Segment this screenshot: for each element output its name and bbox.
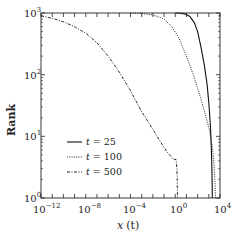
legend-label-t25: t = 25: [86, 136, 116, 147]
x-tick-label-0: 10−12: [33, 202, 61, 215]
x-tick-label-3: 100: [170, 202, 187, 215]
y-tick-label-2: 102: [24, 68, 41, 81]
y-tick-label-3: 103: [24, 6, 41, 19]
major-ticks: [41, 13, 220, 198]
y-tick-label-1: 101: [24, 129, 41, 142]
y-axis-title: Rank: [5, 104, 18, 137]
x-axis-title: x(t): [117, 219, 139, 232]
series-t100-line: [131, 13, 216, 198]
y-tick-label-0: 100: [24, 191, 41, 204]
series-t25-line: [175, 13, 212, 198]
legend: t = 25 t = 100 t = 500: [67, 136, 122, 177]
legend-label-t100: t = 100: [86, 151, 122, 162]
minor-ticks: [41, 16, 220, 180]
legend-item-t25: t = 25: [67, 136, 116, 147]
series-layer: [41, 13, 216, 198]
legend-item-t100: t = 100: [67, 151, 122, 162]
legend-item-t500: t = 500: [67, 166, 122, 177]
legend-label-t500: t = 500: [86, 166, 122, 177]
plot-frame: [41, 13, 220, 198]
x-tick-label-1: 10−8: [78, 202, 101, 215]
x-tick-label-4: 104: [214, 202, 232, 215]
rank-chart: 100 101 102 103 10−12 10−8 10−4 100 104 …: [0, 0, 238, 236]
x-tick-label-2: 10−4: [123, 202, 147, 215]
